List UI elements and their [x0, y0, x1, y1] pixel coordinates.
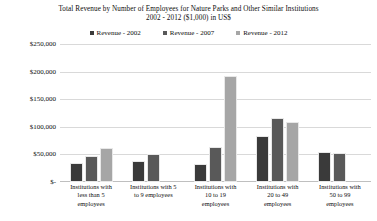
- bar-group-10-to-19: [184, 44, 246, 182]
- x-label-50-to-99-line-3: employees: [310, 200, 370, 208]
- y-axis: $250,000 $200,000 $150,000 $100,000 $50,…: [0, 44, 60, 182]
- bars-layer: [60, 44, 371, 182]
- bar-2002-10-to-19[interactable]: [194, 164, 207, 182]
- legend-swatch-icon-2002: [90, 31, 94, 35]
- chart-legend: Revenue - 2002 Revenue - 2007 Revenue - …: [0, 29, 377, 37]
- plot-area: [60, 44, 371, 182]
- y-tick-50000: $50,000: [33, 150, 56, 158]
- x-label-20-to-49-line-1: Institutions with: [248, 183, 308, 191]
- plot-wrapper: $250,000 $200,000 $150,000 $100,000 $50,…: [0, 44, 377, 182]
- legend-label-2007: Revenue - 2007: [170, 29, 214, 37]
- x-label-20-to-49-line-3: employees: [248, 200, 308, 208]
- legend-swatch-icon-2007: [163, 31, 167, 35]
- y-tick-100000: $100,000: [30, 123, 56, 131]
- legend-item-2002: Revenue - 2002: [90, 29, 141, 37]
- bar-2012-20-to-49[interactable]: [286, 122, 299, 182]
- y-tick-250000: $250,000: [30, 40, 56, 48]
- bar-chart: Total Revenue by Number of Employees for…: [0, 0, 377, 221]
- bar-group-20-to-49: [247, 44, 309, 182]
- bar-2002-20-to-49[interactable]: [256, 136, 269, 182]
- bar-group-50-to-99: [309, 44, 371, 182]
- x-label-5-to-9-line-1: Institutions with 5: [123, 183, 183, 191]
- x-label-5-to-9: Institutions with 5 to 9 employees: [122, 183, 184, 208]
- chart-title-line-2: 2002 - 2012 ($1,000) in US$: [0, 14, 377, 23]
- x-label-5-to-9-line-2: to 9 employees: [123, 191, 183, 199]
- bar-2007-50-to-99[interactable]: [333, 153, 346, 182]
- y-tick-150000: $150,000: [30, 95, 56, 103]
- bar-2007-10-to-19[interactable]: [209, 147, 222, 182]
- y-tick-200000: $200,000: [30, 68, 56, 76]
- bar-2007-less-than-5[interactable]: [85, 156, 98, 183]
- x-axis: Institutions with less than 5 employees …: [60, 183, 371, 208]
- x-label-10-to-19-line-1: Institutions with: [185, 183, 245, 191]
- bar-group-less-than-5: [60, 44, 122, 182]
- x-label-10-to-19-line-3: employees: [185, 200, 245, 208]
- x-label-50-to-99: Institutions with 50 to 99 employees: [309, 183, 371, 208]
- x-label-10-to-19-line-2: 10 to 19: [185, 191, 245, 199]
- chart-title-line-1: Total Revenue by Number of Employees for…: [0, 5, 377, 14]
- x-label-20-to-49-line-2: 20 to 49: [248, 191, 308, 199]
- legend-item-2012: Revenue - 2012: [236, 29, 287, 37]
- x-label-less-than-5-line-1: Institutions with: [61, 183, 121, 191]
- bar-2007-20-to-49[interactable]: [271, 118, 284, 182]
- legend-swatch-icon-2012: [236, 31, 240, 35]
- bar-2002-50-to-99[interactable]: [318, 152, 331, 182]
- bar-group-5-to-9: [122, 44, 184, 182]
- x-label-50-to-99-line-1: Institutions with: [310, 183, 370, 191]
- bar-2012-less-than-5[interactable]: [100, 148, 113, 182]
- bar-2012-10-to-19[interactable]: [224, 76, 237, 182]
- chart-title: Total Revenue by Number of Employees for…: [0, 5, 377, 24]
- x-label-50-to-99-line-2: 50 to 99: [310, 191, 370, 199]
- bar-2002-5-to-9[interactable]: [132, 161, 145, 182]
- legend-label-2002: Revenue - 2002: [97, 29, 141, 37]
- legend-item-2007: Revenue - 2007: [163, 29, 214, 37]
- legend-label-2012: Revenue - 2012: [243, 29, 287, 37]
- x-label-less-than-5-line-3: employees: [61, 200, 121, 208]
- bar-2002-less-than-5[interactable]: [70, 163, 83, 182]
- x-label-20-to-49: Institutions with 20 to 49 employees: [247, 183, 309, 208]
- y-tick-0: $-: [50, 178, 56, 186]
- x-label-less-than-5-line-2: less than 5: [61, 191, 121, 199]
- x-label-less-than-5: Institutions with less than 5 employees: [60, 183, 122, 208]
- x-label-10-to-19: Institutions with 10 to 19 employees: [184, 183, 246, 208]
- bar-2007-5-to-9[interactable]: [147, 154, 160, 182]
